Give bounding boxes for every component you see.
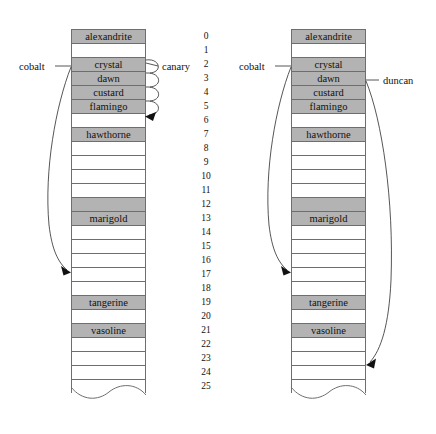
- slot-label: dawn: [292, 72, 365, 85]
- slot-index-11: 11: [194, 183, 218, 197]
- slot-marigold: marigold: [291, 211, 366, 225]
- slot-index-12: 12: [194, 197, 218, 211]
- slot-empty-22: [291, 337, 366, 351]
- slot-label: [72, 114, 145, 115]
- figure-canvas: alexandritecrystaldawncustardflamingohaw…: [0, 0, 436, 434]
- duncan-label: duncan: [383, 75, 413, 86]
- slot-empty-20: [71, 309, 146, 323]
- slot-label: custard: [72, 86, 145, 99]
- slot-label: flamingo: [292, 100, 365, 113]
- slot-empty-10: [291, 169, 366, 183]
- slot-label: [292, 310, 365, 311]
- slot-label: [292, 240, 365, 241]
- slot-label: tangerine: [292, 296, 365, 309]
- slot-empty-16: [291, 253, 366, 267]
- canary-leader: [146, 63, 158, 66]
- slot-empty-24: [291, 365, 366, 379]
- cobalt-left-arrowhead: [61, 266, 71, 276]
- pointer-overlay: [0, 0, 436, 434]
- slot-crystal: crystal: [291, 57, 366, 71]
- slot-index-23: 23: [194, 351, 218, 365]
- slot-empty-25: [291, 379, 366, 393]
- left-hash-table: alexandritecrystaldawncustardflamingohaw…: [71, 29, 146, 393]
- slot-empty-6: [291, 113, 366, 127]
- slot-empty-12: [71, 197, 146, 211]
- slot-label: [72, 380, 145, 381]
- slot-label: [72, 240, 145, 241]
- slot-label: [72, 254, 145, 255]
- slot-empty-14: [291, 225, 366, 239]
- slot-index-21: 21: [194, 323, 218, 337]
- slot-label: vasoline: [72, 324, 145, 337]
- slot-label: [292, 156, 365, 157]
- right-hash-table: alexandritecrystaldawncustardflamingohaw…: [291, 29, 366, 393]
- slot-label: [72, 282, 145, 283]
- slot-label: [292, 226, 365, 227]
- duncan-curve: [366, 81, 391, 362]
- slot-label: [72, 268, 145, 269]
- slot-empty-11: [71, 183, 146, 197]
- slot-index-1: 1: [194, 43, 218, 57]
- slot-label: [292, 254, 365, 255]
- slot-flamingo: flamingo: [71, 99, 146, 113]
- slot-index-7: 7: [194, 127, 218, 141]
- slot-label: [292, 338, 365, 339]
- slot-label: [72, 226, 145, 227]
- slot-label: [72, 184, 145, 185]
- slot-empty-6: [71, 113, 146, 127]
- slot-empty-8: [71, 141, 146, 155]
- slot-empty-22: [71, 337, 146, 351]
- slot-empty-16: [71, 253, 146, 267]
- canary-probe-loop-2: [146, 73, 159, 87]
- slot-flamingo: flamingo: [291, 99, 366, 113]
- slot-label: marigold: [72, 212, 145, 225]
- slot-index-0: 0: [194, 29, 218, 43]
- slot-label: [72, 352, 145, 353]
- slot-label: alexandrite: [292, 30, 365, 43]
- slot-tangerine: tangerine: [71, 295, 146, 309]
- slot-label: crystal: [292, 58, 365, 71]
- slot-label: [72, 338, 145, 339]
- slot-label: custard: [292, 86, 365, 99]
- slot-index-17: 17: [194, 267, 218, 281]
- slot-empty-12: [291, 197, 366, 211]
- slot-empty-1: [71, 43, 146, 57]
- slot-empty-24: [71, 365, 146, 379]
- slot-empty-10: [71, 169, 146, 183]
- slot-label: [292, 170, 365, 171]
- slot-hawthorne: hawthorne: [291, 127, 366, 141]
- slot-empty-1: [291, 43, 366, 57]
- slot-index-14: 14: [194, 225, 218, 239]
- slot-empty-14: [71, 225, 146, 239]
- slot-empty-20: [291, 309, 366, 323]
- slot-empty-9: [71, 155, 146, 169]
- slot-label: vasoline: [292, 324, 365, 337]
- slot-index-24: 24: [194, 365, 218, 379]
- cobalt-left-curve: [48, 67, 71, 270]
- slot-empty-18: [291, 281, 366, 295]
- slot-label: alexandrite: [72, 30, 145, 43]
- slot-label: [292, 366, 365, 367]
- slot-dawn: dawn: [291, 71, 366, 85]
- slot-empty-25: [71, 379, 146, 393]
- slot-label: [72, 170, 145, 171]
- slot-label: [292, 198, 365, 199]
- canary-probe-loop-1: [146, 60, 158, 73]
- slot-empty-17: [71, 267, 146, 281]
- duncan-arrowhead: [366, 359, 376, 369]
- slot-label: [72, 142, 145, 143]
- slot-index-9: 9: [194, 155, 218, 169]
- cobalt-label-right: cobalt: [239, 61, 265, 72]
- slot-label: [72, 198, 145, 199]
- slot-label: crystal: [72, 58, 145, 71]
- slot-index-15: 15: [194, 239, 218, 253]
- slot-index-18: 18: [194, 281, 218, 295]
- slot-custard: custard: [71, 85, 146, 99]
- canary-arrowhead: [145, 112, 156, 121]
- slot-index-13: 13: [194, 211, 218, 225]
- slot-label: marigold: [292, 212, 365, 225]
- slot-label: [292, 268, 365, 269]
- canary-probe-loop-3: [146, 87, 159, 101]
- slot-vasoline: vasoline: [291, 323, 366, 337]
- slot-label: [292, 114, 365, 115]
